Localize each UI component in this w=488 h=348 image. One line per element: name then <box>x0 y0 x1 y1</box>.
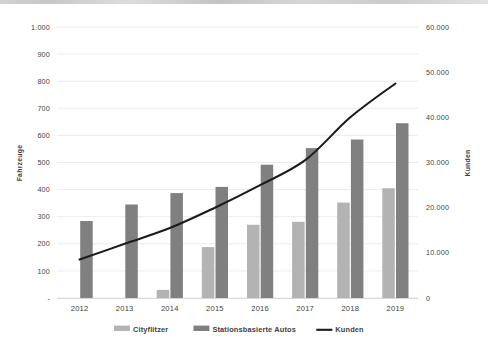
category-label: 2012 <box>71 304 89 313</box>
chart-legend: CityflitzerStationsbasierte AutosKunden <box>114 325 364 334</box>
bar-cityflitzer <box>337 203 350 298</box>
category-label: 2019 <box>387 304 405 313</box>
bar-stationsbasierte-autos <box>351 140 364 299</box>
category-axis: 20122013201420152016201720182019 <box>57 299 418 314</box>
bar-cityflitzer <box>292 222 305 298</box>
left-axis-tick-label: 500 <box>37 158 50 167</box>
legend-item-cityflitzer-swatch <box>114 326 130 331</box>
legend-item-kunden-label: Kunden <box>335 325 364 334</box>
right-axis-tick-label: 50.000 <box>426 68 449 77</box>
left-axis-tick-label: 100 <box>37 267 50 276</box>
bar-cityflitzer <box>202 247 215 298</box>
bar-stationsbasierte-autos <box>170 193 183 298</box>
right-axis-tick-label: 10.000 <box>426 248 449 257</box>
left-axis-tick-label: 600 <box>37 131 50 140</box>
legend-item-stationsbasierte-autos-swatch <box>193 326 209 331</box>
left-axis-tick-label: 700 <box>37 104 50 113</box>
legend-item-stationsbasierte-autos-label: Stationsbasierte Autos <box>212 325 296 334</box>
left-axis-tick-label: 900 <box>37 50 50 59</box>
bar-cityflitzer <box>382 188 395 298</box>
bar-stationsbasierte-autos <box>396 123 409 298</box>
legend-item-cityflitzer-label: Cityflitzer <box>133 325 168 334</box>
right-axis-tick-label: 0 <box>426 294 430 303</box>
left-axis-tick-label: 1.000 <box>31 23 50 32</box>
left-axis-tick-label: 200 <box>37 239 50 248</box>
right-axis-tick-label: 60.000 <box>426 23 449 32</box>
category-label: 2018 <box>341 304 359 313</box>
left-axis: -1002003004005006007008009001.000 Fahrze… <box>16 23 50 303</box>
left-axis-tick-label: 400 <box>37 185 50 194</box>
category-label: 2016 <box>251 304 269 313</box>
bar-series-group <box>80 123 408 298</box>
category-label: 2013 <box>116 304 134 313</box>
left-axis-title: Fahrzeuge <box>16 145 24 182</box>
right-axis-tick-label: 40.000 <box>426 113 449 122</box>
right-axis: 010.00020.00030.00040.00050.00060.000 Ku… <box>426 23 471 303</box>
combo-chart: -1002003004005006007008009001.000 Fahrze… <box>0 0 488 348</box>
bar-cityflitzer <box>157 290 170 298</box>
right-axis-title: Kunden <box>464 149 471 176</box>
plot-gridlines <box>57 27 418 298</box>
right-axis-tick-label: 30.000 <box>426 158 449 167</box>
bar-stationsbasierte-autos <box>306 148 319 298</box>
bar-cityflitzer <box>247 225 260 298</box>
left-axis-tick-label: - <box>47 294 50 303</box>
bar-stationsbasierte-autos <box>125 205 138 299</box>
left-axis-tick-label: 800 <box>37 77 50 86</box>
category-label: 2014 <box>161 304 179 313</box>
left-axis-tick-label: 300 <box>37 212 50 221</box>
category-label: 2017 <box>296 304 314 313</box>
category-label: 2015 <box>206 304 224 313</box>
right-axis-tick-label: 20.000 <box>426 203 449 212</box>
chart-page: -1002003004005006007008009001.000 Fahrze… <box>0 0 488 348</box>
